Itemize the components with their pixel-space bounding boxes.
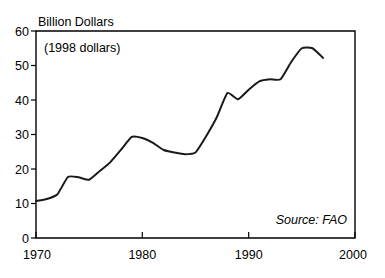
y-tick-label-40: 40 <box>15 94 29 108</box>
plot-frame <box>36 31 355 238</box>
y-tick-label-50: 50 <box>15 59 29 73</box>
plot-border <box>36 31 355 238</box>
y-axis-tick-labels: 0 10 20 30 40 50 60 <box>15 25 29 246</box>
x-tick-label-2000: 2000 <box>339 248 367 262</box>
inflation-basis-annotation: (1998 dollars) <box>44 41 120 55</box>
y-tick-label-60: 60 <box>15 25 29 39</box>
y-tick-label-10: 10 <box>15 197 29 211</box>
y-axis-ticks <box>31 31 36 238</box>
y-tick-label-0: 0 <box>22 232 29 246</box>
x-tick-label-1970: 1970 <box>23 248 51 262</box>
x-axis-ticks <box>36 232 355 238</box>
chart-figure: Billion Dollars (1998 dollars) 0 10 20 3… <box>0 0 385 278</box>
source-note: Source: FAO <box>276 213 348 227</box>
x-axis-tick-labels: 1970 1980 1990 2000 <box>23 248 367 262</box>
y-tick-label-30: 30 <box>15 128 29 142</box>
y-tick-label-20: 20 <box>15 163 29 177</box>
x-tick-label-1990: 1990 <box>235 248 263 262</box>
x-tick-label-1980: 1980 <box>128 248 156 262</box>
y-axis-title: Billion Dollars <box>38 15 114 29</box>
line-chart: Billion Dollars (1998 dollars) 0 10 20 3… <box>0 0 385 278</box>
data-series-line <box>36 48 323 202</box>
